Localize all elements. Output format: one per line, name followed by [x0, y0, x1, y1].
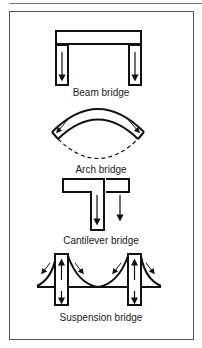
beam-bridge-label: Beam bridge: [0, 87, 202, 98]
suspension-bridge-label: Suspension bridge: [0, 312, 202, 323]
cantilever-bridge-label: Cantilever bridge: [0, 235, 202, 246]
cantilever-bridge-figure: [63, 179, 129, 230]
beam-bridge-figure: [56, 31, 141, 85]
arch-bridge-figure: [52, 109, 144, 159]
suspension-bridge-figure: [37, 254, 161, 305]
arch-bridge-label: Arch bridge: [0, 164, 202, 175]
